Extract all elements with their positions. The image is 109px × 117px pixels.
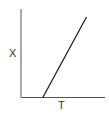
data-line — [43, 17, 87, 98]
y-axis-label: X — [9, 48, 16, 59]
x-axis-label: T — [58, 100, 65, 111]
chart-plot — [0, 0, 109, 117]
